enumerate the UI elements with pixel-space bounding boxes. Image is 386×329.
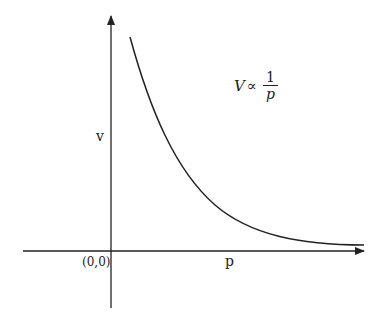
- formula-denominator: p: [266, 86, 275, 102]
- proportional-symbol: ∝: [247, 77, 257, 95]
- formula-fraction: 1 p: [263, 70, 278, 102]
- formula-lhs: V: [234, 77, 245, 95]
- formula-numerator: 1: [263, 70, 278, 86]
- x-axis-label: p: [225, 253, 234, 269]
- origin-label: (0,0): [82, 255, 110, 269]
- chart-canvas: [0, 0, 386, 329]
- y-axis-label: v: [96, 128, 104, 144]
- formula-annotation: V ∝ 1 p: [234, 70, 278, 102]
- inverse-curve: [130, 37, 364, 245]
